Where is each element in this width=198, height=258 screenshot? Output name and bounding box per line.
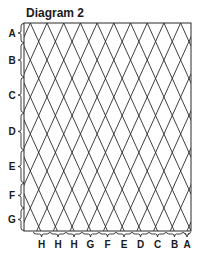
column-brace: [34, 232, 50, 237]
column-brace: [117, 232, 132, 237]
column-label: B: [171, 239, 178, 250]
lattice-line: [20, 23, 114, 231]
row-braces: ABCDEFG: [8, 24, 24, 231]
lattice-line: [120, 23, 198, 231]
row-label: C: [8, 90, 15, 101]
row-label: D: [8, 126, 15, 137]
lattice-line: [131, 23, 198, 231]
row-brace: [18, 184, 24, 208]
lattice-line: [14, 23, 108, 231]
lattice-line: [87, 23, 181, 231]
column-brace: [67, 232, 82, 237]
lattice-line: [47, 23, 141, 231]
lattice-line: [164, 23, 198, 231]
column-label: C: [154, 239, 161, 250]
lattice-line: [103, 23, 197, 231]
column-brace: [167, 232, 183, 237]
row-brace: [18, 209, 24, 231]
column-label: G: [87, 239, 95, 250]
lattice-line: [187, 23, 198, 231]
diamond-lattice-diagram: ABCDEFG HHHGFEDCBA: [0, 0, 198, 258]
lattice-line: [3, 23, 97, 231]
column-label: E: [121, 239, 128, 250]
lattice-line: [53, 23, 147, 231]
grid-frame: [24, 23, 191, 231]
row-label: B: [8, 55, 15, 66]
column-label: H: [38, 239, 45, 250]
lattice-line: [64, 23, 158, 231]
row-brace: [18, 114, 24, 150]
column-label: H: [70, 239, 77, 250]
lattice-line: [37, 23, 131, 231]
column-label: F: [104, 239, 110, 250]
row-label: F: [9, 190, 15, 201]
column-brace: [133, 232, 149, 237]
column-brace: [100, 232, 116, 237]
column-label: A: [183, 239, 190, 250]
lattice-line: [70, 23, 164, 231]
column-brace: [83, 232, 99, 237]
diamond-lattice: [0, 23, 198, 231]
lattice-line: [0, 23, 41, 231]
lattice-line: [97, 23, 191, 231]
row-label: E: [9, 161, 16, 172]
lattice-line: [80, 23, 174, 231]
row-brace: [18, 24, 24, 43]
lattice-line: [0, 23, 7, 231]
column-label: H: [54, 239, 61, 250]
lattice-line: [30, 23, 124, 231]
column-label: D: [137, 239, 144, 250]
column-brace: [51, 232, 66, 237]
row-brace: [18, 44, 24, 77]
column-brace: [150, 232, 166, 237]
row-brace: [18, 78, 24, 113]
lattice-line: [197, 23, 198, 231]
column-braces: HHHGFEDCBA: [34, 232, 191, 250]
lattice-line: [147, 23, 198, 231]
row-brace: [18, 151, 24, 183]
row-label: G: [8, 214, 16, 225]
row-label: A: [8, 28, 15, 39]
column-brace: [184, 232, 191, 237]
